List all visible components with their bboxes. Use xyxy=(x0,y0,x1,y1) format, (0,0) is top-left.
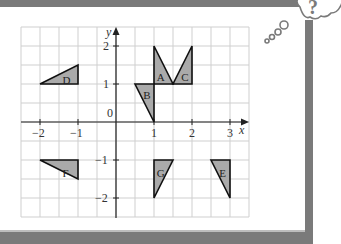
triangle-label: C xyxy=(181,71,188,83)
x-tick-label: 2 xyxy=(189,126,195,140)
triangle-label: G xyxy=(157,167,165,179)
triangle-label: E xyxy=(219,167,226,179)
x-axis-label: x xyxy=(238,123,245,137)
y-axis-label: y xyxy=(105,25,112,39)
question-mark-icon: ? xyxy=(308,0,318,18)
triangle-label: B xyxy=(143,89,150,101)
y-axis-arrow-icon xyxy=(113,27,120,35)
x-tick-label: 1 xyxy=(151,126,157,140)
y-tick-label: 1 xyxy=(103,77,109,91)
triangle-label: D xyxy=(63,74,71,86)
x-tick-label: 3 xyxy=(227,126,233,140)
coordinate-plot: ? x y −2−1012321−1−2 ABCDEFG xyxy=(0,0,341,244)
x-tick-label: 0 xyxy=(107,106,113,120)
thought-bubble-icon: ? xyxy=(265,0,341,43)
x-tick-label: −1 xyxy=(70,126,83,140)
triangle-label: A xyxy=(157,71,165,83)
triangle-label: F xyxy=(63,167,69,179)
x-tick-label: −2 xyxy=(32,126,45,140)
y-tick-label: 2 xyxy=(103,39,109,53)
y-tick-label: −1 xyxy=(95,153,108,167)
y-tick-label: −2 xyxy=(95,191,108,205)
